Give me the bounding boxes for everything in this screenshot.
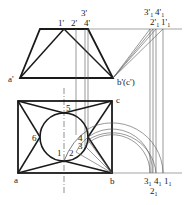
label-c: c [116,95,120,105]
label-4-prime: 4' [84,18,91,28]
label-a-prime: a' [8,74,14,84]
label-2: 2 [69,148,74,158]
label-a: a [14,175,18,185]
label-5: 5 [66,103,71,113]
fan-1 [113,29,163,78]
projection-diagram: a' b'(c') 1' 2' 3' 4' 3'1 4'1 2'1 1'1 [0,0,187,205]
label-1: 1 [57,148,62,158]
edge-1-a [20,29,64,78]
fan-2 [113,29,153,78]
trapezoid-outline [20,29,113,78]
label-b-prime-c-prime: b'(c') [117,77,135,87]
label-1-1: 11 [164,176,172,187]
fan-4 [113,29,156,78]
label-6: 6 [32,133,37,143]
label-4-1: 41 [154,176,162,187]
label-1-prime: 1' [58,18,65,28]
arc-1 [86,123,163,173]
label-b: b [110,176,115,186]
label-2-1: 21 [150,186,158,197]
label-2-prime-1: 2'1 [150,17,159,28]
label-2-prime: 2' [71,18,78,28]
edge-1-b [64,29,113,78]
fan-3 [113,29,150,78]
top-view: a b c 1 2 3 4 5 6 31 41 11 21 [14,88,182,197]
label-3-prime: 3' [81,8,88,18]
label-1-prime-1: 1'1 [161,17,170,28]
label-4: 4 [78,133,83,143]
